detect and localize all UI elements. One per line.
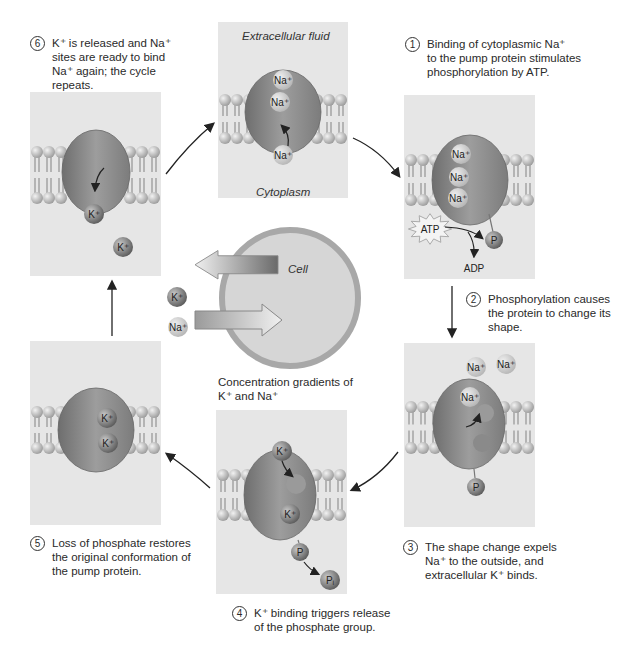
svg-text:Na⁺: Na⁺ <box>497 359 515 370</box>
k-binding-site <box>476 404 494 422</box>
phospholipid-head <box>323 94 335 106</box>
phospholipid <box>217 469 229 521</box>
phospholipid-head <box>522 442 534 454</box>
adp-label: ADP <box>464 263 485 274</box>
phospholipid-head <box>136 442 148 454</box>
svg-text:K⁺: K⁺ <box>276 446 288 457</box>
phospholipid <box>229 469 241 521</box>
phospholipid <box>417 154 429 206</box>
phospholipid <box>43 406 55 454</box>
pump-protein-step1 <box>432 135 508 225</box>
k-ion: K⁺ <box>98 433 118 453</box>
phospholipid <box>335 94 347 144</box>
svg-text:ATP: ATP <box>421 224 440 235</box>
phospholipid <box>148 146 160 204</box>
svg-text:Na⁺: Na⁺ <box>450 172 468 183</box>
svg-text:Na⁺: Na⁺ <box>274 150 292 161</box>
phospholipid-head <box>510 194 522 206</box>
svg-text:Na⁺: Na⁺ <box>452 149 470 160</box>
k-ion: K⁺ <box>280 504 300 524</box>
phospholipid <box>522 154 534 206</box>
phosphate-ion: P <box>485 231 503 249</box>
k-ion: K⁺ <box>97 408 117 428</box>
pump-protein-step6 <box>62 130 130 214</box>
phospholipid <box>231 94 243 144</box>
svg-text:Na⁺: Na⁺ <box>274 75 292 86</box>
phospholipid-head <box>231 132 243 144</box>
svg-text:P: P <box>491 235 498 246</box>
phosphate-ion: P <box>467 478 485 496</box>
phospholipid-head <box>148 406 160 418</box>
cell-label: Cell <box>288 263 308 275</box>
k-ion: K⁺ <box>84 204 104 224</box>
phospholipid-head <box>323 132 335 144</box>
na-ion: Na⁺ <box>449 167 469 187</box>
phospholipid-head <box>522 401 534 413</box>
pump-protein-step4 <box>244 450 316 540</box>
phospholipid <box>510 401 522 454</box>
phospholipid-head <box>136 192 148 204</box>
cycle-arrow-4-to-5 <box>167 454 210 488</box>
na-ion: Na⁺ <box>168 317 188 337</box>
cell-membrane <box>222 230 358 366</box>
phospholipid-head <box>405 442 417 454</box>
k-binding-site <box>473 434 491 452</box>
phospholipid-head <box>405 154 417 166</box>
phospholipid <box>405 154 417 206</box>
k-binding-site <box>286 474 306 494</box>
na-ion: Na⁺ <box>273 70 293 90</box>
pump-protein-step5 <box>58 388 134 472</box>
phospholipid <box>405 401 417 454</box>
phospholipid-head <box>124 192 136 204</box>
phospholipid-head <box>417 194 429 206</box>
phospholipid <box>417 401 429 454</box>
na-ion: Na⁺ <box>270 92 290 112</box>
na-ion: Na⁺ <box>448 188 468 208</box>
phospholipid <box>322 469 334 521</box>
phospholipid-head <box>417 401 429 413</box>
k-ion: K⁺ <box>167 287 187 307</box>
phospholipid <box>334 469 346 521</box>
phospholipid-head <box>55 192 67 204</box>
phosphate-release-arrow <box>304 562 318 574</box>
phospholipid <box>31 146 43 204</box>
phospholipid-head <box>148 442 160 454</box>
phosphate-ion: Pᵢ <box>320 570 340 590</box>
diagram-canvas: Na⁺Na⁺Na⁺Na⁺Na⁺Na⁺ATPPADPNa⁺Na⁺Na⁺PK⁺K⁺P… <box>0 0 617 648</box>
na-ion: Na⁺ <box>496 354 516 374</box>
na-ion: Na⁺ <box>273 145 293 165</box>
phospholipid-head <box>405 401 417 413</box>
phospholipid-head <box>229 509 241 521</box>
phospholipid-head <box>219 132 231 144</box>
atp-burst: ATP <box>408 214 451 245</box>
phospholipid-head <box>510 401 522 413</box>
na-ion: Na⁺ <box>460 387 480 407</box>
phospholipid-head <box>322 509 334 521</box>
phospholipid-head <box>148 146 160 158</box>
k-ion: K⁺ <box>113 237 133 257</box>
phospholipid <box>522 401 534 454</box>
phospholipid <box>323 94 335 144</box>
phospholipid-head <box>148 192 160 204</box>
svg-text:Na⁺: Na⁺ <box>461 392 479 403</box>
k-ion: K⁺ <box>272 441 292 461</box>
na-ion: Na⁺ <box>466 357 486 377</box>
phospholipid-head <box>405 194 417 206</box>
svg-text:Na⁺: Na⁺ <box>271 97 289 108</box>
phosphate-ion: P <box>291 543 309 561</box>
svg-text:K⁺: K⁺ <box>117 242 129 253</box>
svg-text:Na⁺: Na⁺ <box>467 362 485 373</box>
phospholipid-head <box>43 406 55 418</box>
phospholipid <box>136 146 148 204</box>
phospholipid-head <box>136 146 148 158</box>
svg-text:P: P <box>297 547 304 558</box>
svg-text:P: P <box>473 482 480 493</box>
phospholipid-head <box>229 469 241 481</box>
phospholipid <box>43 146 55 204</box>
phospholipid-head <box>136 406 148 418</box>
phospholipid-head <box>43 146 55 158</box>
phospholipid-head <box>335 132 347 144</box>
svg-text:K⁺: K⁺ <box>101 413 113 424</box>
svg-text:K⁺: K⁺ <box>88 209 100 220</box>
svg-text:K⁺: K⁺ <box>102 438 114 449</box>
